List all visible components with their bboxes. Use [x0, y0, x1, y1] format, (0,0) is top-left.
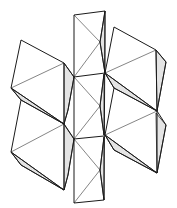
fold-line: [11, 63, 64, 88]
fold-line: [74, 170, 100, 203]
fold-lines: [11, 15, 157, 203]
fold-line: [74, 106, 100, 139]
outline-edge: [11, 88, 64, 124]
outline-edge: [74, 73, 105, 77]
outline-edge: [105, 135, 157, 173]
fold-line: [105, 111, 157, 135]
outline-edge: [74, 200, 104, 203]
fold-line: [74, 139, 100, 170]
outline-edge: [105, 88, 114, 135]
shaded-faces: [11, 11, 166, 200]
shaded-face: [156, 50, 166, 111]
outline-edge: [114, 150, 157, 173]
fold-line: [74, 42, 100, 77]
outline-edges: [11, 11, 166, 203]
polyhedron-net-diagram: [0, 0, 177, 208]
outline-edge: [11, 40, 21, 88]
outline-edge: [11, 152, 64, 190]
outline-edge: [105, 27, 114, 73]
shaded-face: [64, 124, 74, 190]
outline-edge: [114, 27, 156, 50]
fold-line: [11, 124, 64, 152]
outline-edge: [21, 165, 64, 190]
fold-line: [105, 50, 156, 73]
outline-edge: [114, 88, 157, 111]
outline-edge: [74, 11, 105, 15]
outline-edge: [74, 136, 104, 139]
outline-edge: [21, 40, 64, 63]
outline-edge: [11, 100, 21, 152]
shaded-face: [64, 63, 74, 124]
outline-edge: [21, 100, 64, 124]
fold-line: [74, 77, 100, 106]
fold-line: [74, 15, 100, 42]
